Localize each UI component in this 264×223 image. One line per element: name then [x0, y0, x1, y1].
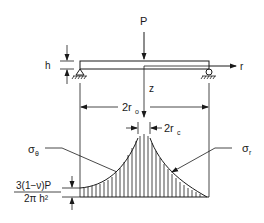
contact-radius-subscript: c [177, 129, 181, 136]
outer-radius-dimension [81, 100, 208, 117]
thickness-dimension [60, 45, 74, 84]
right-support-icon [201, 69, 216, 79]
sigma-r-label: σ [242, 142, 249, 154]
contact-radius-dimension [126, 122, 162, 134]
z-axis-label: z [149, 83, 154, 94]
load-label: P [140, 15, 147, 27]
radial-axis-label: r [240, 61, 244, 72]
edge-stress-denominator: 2π h² [24, 193, 49, 204]
sigma-theta-label: σ [28, 143, 35, 155]
edge-stress-numerator: 3(1−ν)P [16, 180, 52, 191]
thickness-label: h [45, 60, 51, 71]
outer-radius-label: 2r [122, 101, 132, 113]
plate-stress-diagram: P r h z [0, 0, 264, 223]
sigma-theta-subscript: θ [35, 150, 39, 157]
left-support-icon [72, 69, 87, 79]
stress-distribution [80, 134, 209, 197]
outer-radius-subscript: o [135, 108, 139, 115]
plate [80, 61, 209, 69]
sigma-r-subscript: r [249, 149, 252, 156]
edge-stress-dimension [62, 176, 80, 210]
contact-radius-label: 2r [164, 122, 174, 134]
